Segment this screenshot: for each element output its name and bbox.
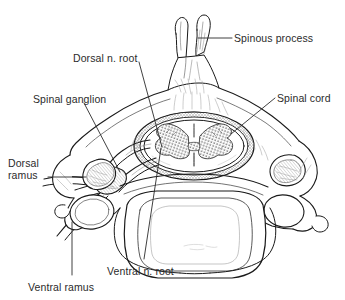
vertebra-illustration (0, 0, 345, 300)
label-spinal-cord: Spinal cord (277, 92, 331, 104)
label-spinous-process: Spinous process (234, 32, 313, 44)
anatomy-figure: Spinous process Dorsal n. root Spinal ga… (0, 0, 345, 300)
label-dorsal-n-root: Dorsal n. root (73, 52, 137, 64)
spinous-process-shape (168, 15, 219, 94)
label-ventral-n-root: Ventral n. root (107, 265, 174, 277)
label-dorsal-ramus: Dorsal ramus (8, 157, 39, 181)
label-ventral-ramus: Ventral ramus (28, 281, 94, 293)
label-spinal-ganglion: Spinal ganglion (33, 93, 106, 105)
